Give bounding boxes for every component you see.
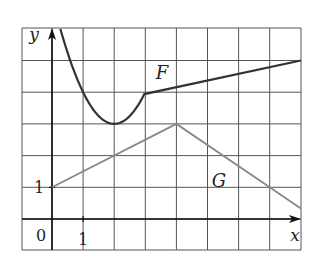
- graph-figure: y x 0 1 1 F G: [0, 0, 316, 264]
- curve-f-label: F: [155, 62, 170, 83]
- y-axis-label: y: [28, 24, 39, 44]
- origin-label: 0: [36, 226, 46, 245]
- curve-g-label: G: [212, 170, 226, 191]
- curve-f: [60, 29, 300, 124]
- plot-svg: y x 0 1 1 F G: [0, 0, 316, 264]
- y-tick-label-1: 1: [34, 178, 44, 197]
- x-axis-label: x: [290, 225, 300, 245]
- x-tick-label-1: 1: [78, 230, 88, 249]
